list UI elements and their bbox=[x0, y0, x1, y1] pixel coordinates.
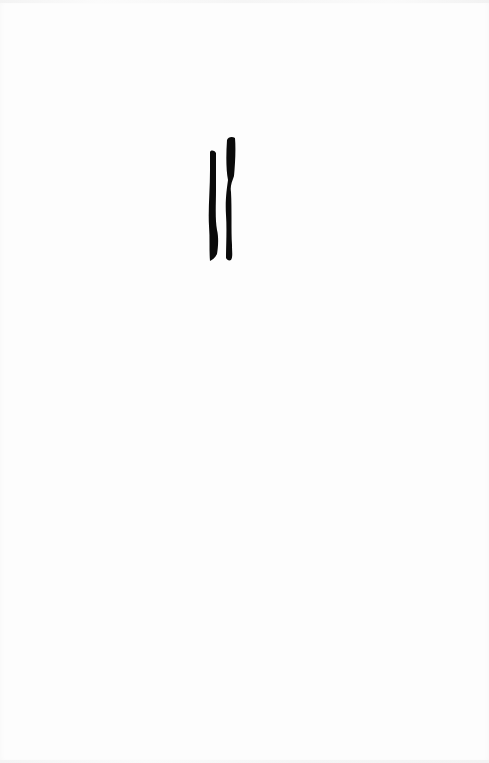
right-stroke bbox=[226, 137, 236, 260]
scanned-page: || bbox=[0, 0, 489, 763]
left-stroke bbox=[209, 151, 218, 261]
brush-stroke-glyph bbox=[200, 130, 250, 270]
